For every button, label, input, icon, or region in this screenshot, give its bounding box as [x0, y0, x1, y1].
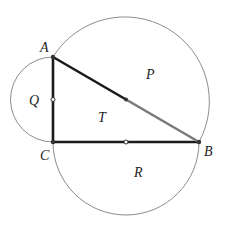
point-b [197, 140, 201, 144]
midpoint-cb [124, 140, 128, 144]
midpoint-ac [51, 98, 55, 102]
region-label-t: T [98, 110, 107, 125]
semicircle-r-arc [53, 142, 199, 215]
vertex-label-c: C [40, 148, 50, 163]
hypotenuse-ab-upper [53, 57, 126, 100]
point-a [51, 55, 55, 59]
region-label-q: Q [29, 93, 39, 108]
hypotenuse-ab-lower [126, 100, 199, 143]
vertex-label-a: A [39, 40, 49, 55]
midpoint-ab [124, 98, 128, 102]
right-triangle-semicircles-diagram: A B C P Q R T [0, 0, 225, 227]
region-label-r: R [133, 165, 143, 180]
region-label-p: P [145, 67, 155, 82]
semicircle-p-arc [53, 17, 209, 142]
point-c [51, 140, 55, 144]
vertex-label-b: B [204, 144, 213, 159]
